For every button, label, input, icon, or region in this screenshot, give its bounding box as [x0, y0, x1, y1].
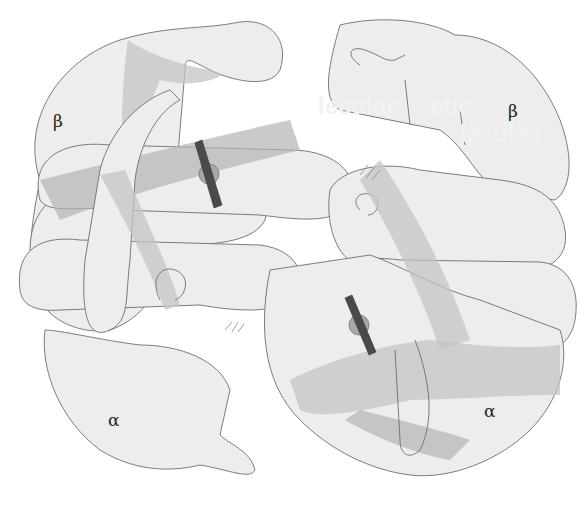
- hemoglobin-figure: lecular etic lecules:: [0, 0, 583, 513]
- subunit-label-alpha: α: [484, 401, 495, 421]
- show-through-text: lecular: [318, 92, 395, 120]
- ribbon-diagram: [0, 0, 583, 513]
- subunit-label-beta: β: [53, 111, 63, 131]
- show-through-text: lecules:: [460, 120, 549, 148]
- show-through-text: etic: [430, 92, 471, 120]
- subunit-label-beta: β: [508, 101, 518, 121]
- subunit-label-alpha: α: [108, 410, 119, 430]
